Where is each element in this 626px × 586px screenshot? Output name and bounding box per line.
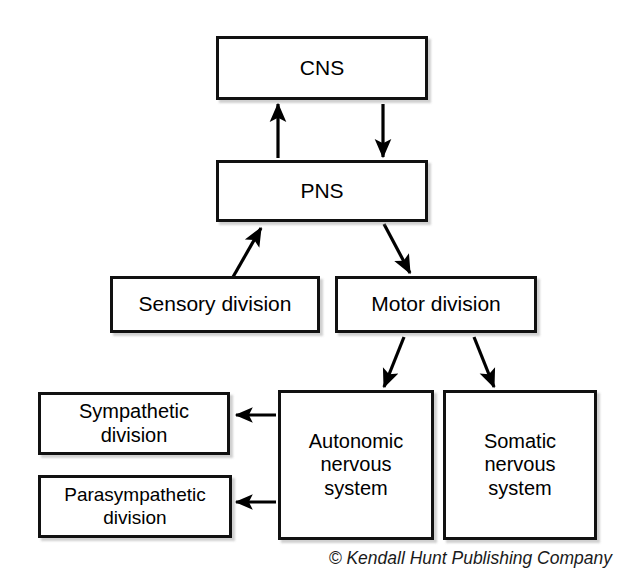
node-sympathetic-division-label: Sympathetic division xyxy=(75,400,193,447)
node-sensory-division-label: Sensory division xyxy=(135,292,296,317)
diagram-canvas: CNS PNS Sensory division Motor division … xyxy=(0,0,626,586)
node-autonomic-nervous-system-label: Autonomic nervous system xyxy=(305,430,408,501)
node-autonomic-nervous-system: Autonomic nervous system xyxy=(278,390,434,540)
node-cns: CNS xyxy=(216,36,428,100)
arrow-sensory-to-pns xyxy=(233,228,261,277)
node-somatic-nervous-system: Somatic nervous system xyxy=(443,390,597,540)
node-cns-label: CNS xyxy=(296,56,348,81)
node-parasympathetic-division-label: Parasympathetic division xyxy=(60,484,210,529)
node-pns-label: PNS xyxy=(296,179,347,204)
node-motor-division-label: Motor division xyxy=(367,292,505,317)
arrow-pns-to-motor xyxy=(384,224,410,273)
copyright-credit: © Kendall Hunt Publishing Company xyxy=(329,548,612,569)
arrow-motor-to-autonomic xyxy=(384,337,404,387)
node-motor-division: Motor division xyxy=(335,276,537,333)
node-somatic-nervous-system-label: Somatic nervous system xyxy=(480,430,560,501)
node-sensory-division: Sensory division xyxy=(110,276,320,333)
arrow-motor-to-somatic xyxy=(474,337,494,387)
node-parasympathetic-division: Parasympathetic division xyxy=(38,475,232,538)
node-pns: PNS xyxy=(216,160,428,222)
node-sympathetic-division: Sympathetic division xyxy=(38,392,230,455)
